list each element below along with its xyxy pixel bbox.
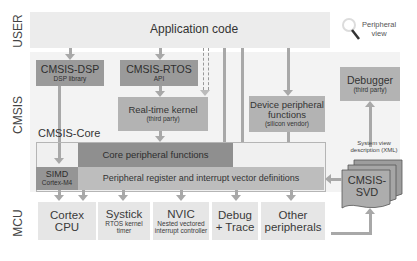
rtos-kernel-block: Real-time kernel (third party) <box>118 97 208 131</box>
simd-block: SIMD Cortex-M4 <box>36 167 78 190</box>
arrowhead-icon <box>118 195 128 201</box>
arrowhead-icon <box>365 208 375 214</box>
svd-title-1: CMSIS- <box>343 174 391 186</box>
arrowhead-icon <box>176 195 186 201</box>
simd-title: SIMD <box>46 170 69 179</box>
debugger-subtitle: (third party) <box>353 87 386 94</box>
arrowhead-icon <box>54 158 64 164</box>
debugger-block: Debugger (third party) <box>340 67 400 101</box>
device-peripheral-block: Device peripheral functions (silicon ven… <box>249 96 325 132</box>
arrowhead-icon <box>200 90 210 96</box>
mcu-title: Other <box>279 209 308 221</box>
application-code: Application code <box>150 22 238 36</box>
simd-subtitle: Cortex-M4 <box>42 180 72 187</box>
magnifier-icon <box>340 16 362 42</box>
mcu-title: NVIC <box>167 208 194 220</box>
peripheral-view: Peripheral view <box>340 14 410 46</box>
device-peripheral-title-2: functions <box>268 110 306 120</box>
line-other-to-svd-v <box>369 214 372 235</box>
peripheral-view-label-1: Peripheral <box>362 20 396 29</box>
arrow-dsp-into-core <box>58 143 61 159</box>
register-definitions-title: Peripheral register and interrupt vector… <box>103 174 300 183</box>
mcu-title: Systick <box>106 208 142 220</box>
svd-caption-1: System view <box>338 140 410 147</box>
debugger-title: Debugger <box>347 75 393 86</box>
arrow-app-to-device <box>287 48 290 90</box>
mcu-block-nvic: NVIC Nested vectored interrupt controlle… <box>153 202 209 240</box>
peripheral-view-label-2: view <box>362 29 396 38</box>
device-peripheral-subtitle: (silicon vendor) <box>265 121 309 128</box>
peripheral-register-definitions: Peripheral register and interrupt vector… <box>78 167 324 190</box>
layer-label-mcu: MCU <box>11 203 25 243</box>
line-other-to-svd-h <box>331 232 371 235</box>
cmsis-rtos-subtitle: API <box>154 76 164 83</box>
dashed-arrow-app-to-kernel <box>203 48 209 90</box>
svd-caption: System view description (XML) <box>338 140 410 154</box>
mcu-block-systick: Systick RTOS kernel timer <box>98 202 150 240</box>
rtos-kernel-subtitle: (third party) <box>146 116 179 123</box>
arrowhead-icon <box>286 195 296 201</box>
mcu-title: + Trace <box>216 221 255 233</box>
cmsis-core-label: CMSIS-Core <box>38 127 100 139</box>
cmsis-dsp-subtitle: DSP library <box>54 76 87 83</box>
cmsis-rtos-block: CMSIS-RTOS API <box>120 60 198 86</box>
mcu-block-debug-trace: Debug + Trace <box>212 202 258 240</box>
arrowhead-icon <box>54 195 64 201</box>
arrow-svd-to-registers <box>330 178 342 181</box>
mcu-title: Debug <box>218 209 252 221</box>
rtos-kernel-title: Real-time kernel <box>128 105 197 115</box>
mcu-subtitle: timer <box>117 228 131 235</box>
cmsis-dsp-title: CMSIS-DSP <box>41 64 99 75</box>
arrowhead-icon <box>231 195 241 201</box>
mcu-block-other-peripherals: Other peripherals <box>261 202 325 240</box>
cmsis-svd-label: CMSIS- SVD <box>343 174 391 198</box>
arrowhead-icon <box>78 195 88 201</box>
mcu-title: Cortex <box>50 209 84 221</box>
arrowhead-icon <box>325 174 331 184</box>
mcu-block-cortex-cpu: Cortex CPU <box>38 202 96 240</box>
core-peripheral-title: Core peripheral functions <box>102 150 208 160</box>
mcu-title: CPU <box>55 221 79 233</box>
svd-title-2: SVD <box>343 186 391 198</box>
svd-caption-2: description (XML) <box>338 147 410 154</box>
mcu-subtitle: interrupt controller <box>155 228 207 235</box>
layer-label-cmsis: CMSIS <box>11 91 25 139</box>
mcu-title: peripherals <box>265 221 322 233</box>
core-peripheral-functions: Core peripheral functions <box>78 143 233 167</box>
arrowhead-icon <box>365 101 375 107</box>
cmsis-rtos-title: CMSIS-RTOS <box>126 64 192 75</box>
cmsis-dsp-block: CMSIS-DSP DSP library <box>36 60 104 86</box>
layer-label-user: USER <box>11 11 25 51</box>
